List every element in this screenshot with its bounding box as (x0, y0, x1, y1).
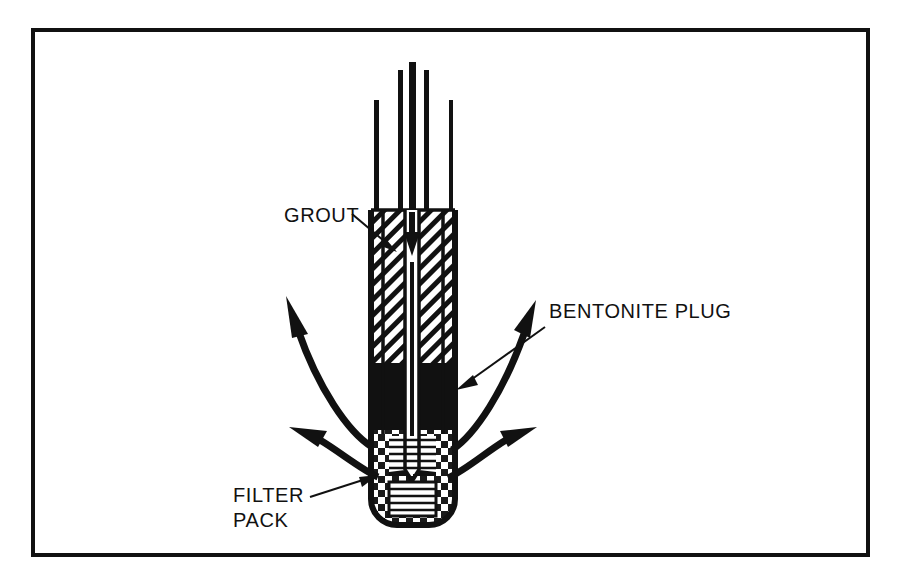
grout-label: GROUT (284, 204, 359, 226)
outflow-arrow-upper-right (452, 300, 536, 450)
tremie-tube-center-pipe (409, 62, 416, 218)
riser-left-pipe (398, 70, 403, 218)
well-construction-diagram: GROUT BENTONITE PLUG FILTER PACK (0, 0, 900, 583)
bentonite-plug-label: BENTONITE PLUG (549, 300, 732, 322)
riser-right-pipe (424, 70, 429, 218)
outflow-arrow-lower-left (289, 427, 378, 477)
casing-wall-right-pipe (449, 100, 453, 218)
standpipe-group (374, 62, 453, 218)
diagram-page: GROUT BENTONITE PLUG FILTER PACK (0, 0, 900, 583)
filter-pack-label-line1: FILTER (233, 484, 304, 506)
filter-pack-leader (310, 475, 378, 497)
filter-pack-label-line2: PACK (233, 509, 288, 531)
casing-wall-left-pipe (374, 100, 379, 218)
well-screen (389, 436, 436, 516)
outflow-arrow-upper-left (286, 296, 372, 447)
outflow-arrow-lower-right (448, 427, 537, 478)
